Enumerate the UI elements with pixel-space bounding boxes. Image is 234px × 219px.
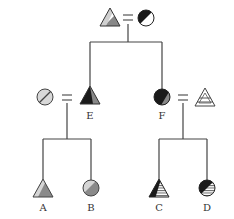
individual-B-circle-icon: [81, 178, 101, 198]
marriage-symbol-right: [178, 95, 188, 100]
label-C: C: [155, 202, 163, 213]
circle-individual-icon: [136, 8, 156, 28]
pedigree-lines: [43, 24, 207, 180]
label-D: D: [203, 202, 211, 213]
marriage-symbol-left: [62, 95, 72, 100]
marriage-symbol-top: [123, 15, 133, 20]
individual-F-circle-icon: [152, 87, 172, 107]
individual-C-triangle-icon: [147, 177, 171, 199]
label-F: F: [159, 110, 166, 121]
pedigree-diagram: E F A B C D: [0, 0, 234, 219]
label-B: B: [87, 202, 94, 213]
individual-A-triangle-icon: [31, 177, 55, 199]
spouse-triangle-icon: [193, 86, 217, 108]
spouse-circle-icon: [35, 87, 55, 107]
label-E: E: [86, 110, 93, 121]
triangle-individual-icon: [98, 6, 122, 28]
individual-E-triangle-icon: [78, 84, 102, 106]
label-A: A: [38, 202, 47, 213]
individual-D-circle-icon: [197, 178, 217, 198]
